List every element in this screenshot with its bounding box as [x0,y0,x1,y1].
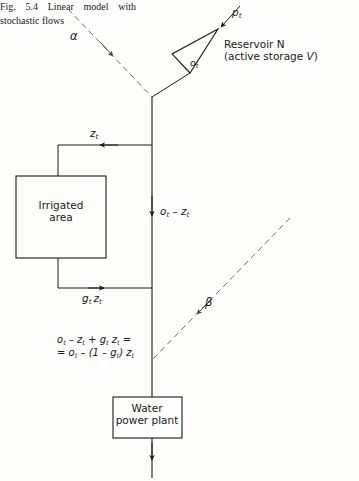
reservoir-label: Reservoir N (active storage V) [224,38,318,63]
diversion-zt-path [58,145,152,176]
continuity-equation: ot – zt + gt zt = = ot – (1 – gt) zt [57,334,134,361]
label-beta: β [205,296,212,310]
beta-stochastic-flow [152,218,290,360]
label-alpha: α [70,30,78,44]
irrigated-area-line2: area [24,211,98,223]
equation-line-2: = ot – (1 – gt) zt [57,347,134,360]
label-channel-flow: ot – zt [160,205,189,219]
irrigated-area-line1: Irrigated [39,199,84,211]
label-return-flow: gt zt [82,292,102,306]
figure-container: pt Reservoir N (active storage V) ot α β… [0,0,359,481]
water-plant-line1: Water [131,402,162,414]
irrigated-area-label: Irrigated area [24,199,98,224]
beta-dashed-line [152,218,290,360]
reservoir-detail: (active storage V) [224,50,318,62]
label-inflow-pt: pt [232,6,241,20]
release-ot-line [152,73,190,97]
alpha-arrowhead [100,42,113,56]
water-power-plant-label: Water power plant [106,402,188,427]
return-flow-path [58,258,152,288]
water-plant-line2: power plant [106,414,188,426]
alpha-stochastic-flow [68,9,152,97]
label-release-ot: ot [190,57,198,69]
equation-line-1: ot – zt + gt zt = [57,334,134,347]
label-diversion-zt: zt [90,127,98,141]
reservoir-name: Reservoir N [224,38,285,50]
